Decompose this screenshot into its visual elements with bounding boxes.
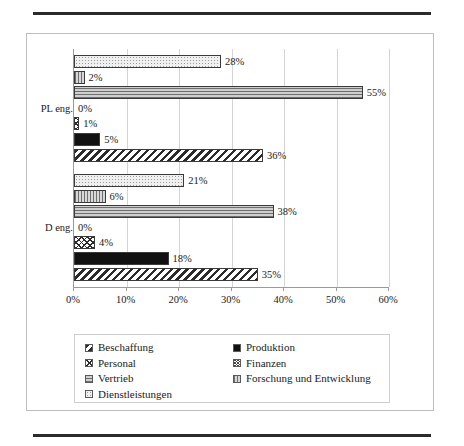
bar-vertrieb-pleng [74, 86, 363, 99]
legend-item-vertrieb: Vertrieb [85, 371, 172, 387]
x-axis-tick-label: 0% [66, 294, 80, 306]
bar-value-label: 5% [104, 133, 118, 146]
x-axis-tick-label: 60% [378, 294, 397, 306]
legend-label: Forschung und Entwicklung [246, 371, 371, 387]
gridline [232, 49, 233, 287]
bar-value-label: 18% [173, 252, 192, 265]
x-axis-tick-label: 30% [221, 294, 240, 306]
bottom-horizontal-rule [33, 434, 431, 437]
solid-black-swatch [233, 344, 241, 352]
legend-item-personal: Personal [85, 356, 172, 372]
bar-produktion-deng [74, 252, 169, 265]
y-axis-label-group-0: PL eng. [27, 103, 73, 114]
legend-item-dienstleistungen: Dienstleistungen [85, 387, 172, 403]
plot-area-wrapper: PL eng. D eng. 28%2%55%0%1%5%36%21%6%38%… [27, 38, 435, 328]
bar-value-label: 55% [367, 86, 386, 99]
bar-value-label: 2% [89, 71, 103, 84]
bar-value-label: 36% [267, 149, 286, 162]
gridline [284, 49, 285, 287]
bar-value-label: 6% [110, 190, 124, 203]
legend-item-finanzen: Finanzen [233, 356, 371, 372]
x-axis-tick-label: 20% [168, 294, 187, 306]
x-axis-tick [336, 287, 337, 291]
bar-value-label: 0% [78, 102, 92, 115]
gridline [337, 49, 338, 287]
legend-label: Finanzen [246, 356, 286, 372]
legend-column-left: BeschaffungPersonalVertriebDienstleistun… [85, 340, 172, 402]
bar-dienstleistungen-pleng [74, 55, 221, 68]
legend-label: Vertrieb [98, 371, 133, 387]
top-horizontal-rule [33, 12, 431, 15]
bar-value-label: 35% [262, 268, 281, 281]
bar-beschaffung-deng [74, 268, 258, 281]
chart-legend: BeschaffungPersonalVertriebDienstleistun… [74, 334, 390, 403]
bar-value-label: 21% [188, 174, 207, 187]
legend-column-right: ProduktionFinanzenForschung und Entwickl… [233, 340, 371, 387]
x-axis-tick-label: 50% [326, 294, 345, 306]
bar-personal-pleng [74, 117, 79, 130]
plot-area: 28%2%55%0%1%5%36%21%6%38%0%4%18%35% [73, 49, 388, 287]
dense-cross-hatch-swatch [233, 359, 241, 367]
gridline [389, 49, 390, 287]
legend-item-beschaffung: Beschaffung [85, 340, 172, 356]
x-axis-tick-label: 40% [273, 294, 292, 306]
x-axis-tick [126, 287, 127, 291]
bar-personal-deng [74, 236, 95, 249]
x-axis-tick [283, 287, 284, 291]
bar-forschung-und-entwicklung-pleng [74, 71, 85, 84]
bar-forschung-und-entwicklung-deng [74, 190, 106, 203]
light-dots-swatch [85, 390, 93, 398]
legend-label: Produktion [246, 340, 295, 356]
x-axis-tick [178, 287, 179, 291]
x-axis-tick [231, 287, 232, 291]
bar-beschaffung-pleng [74, 149, 263, 162]
bar-value-label: 4% [99, 236, 113, 249]
horizontal-lines-swatch [85, 375, 93, 383]
bar-value-label: 38% [278, 205, 297, 218]
y-axis-label-group-1: D eng. [27, 222, 73, 233]
bar-value-label: 1% [83, 117, 97, 130]
y-axis-labels: PL eng. D eng. [27, 38, 73, 287]
legend-item-produktion: Produktion [233, 340, 371, 356]
legend-item-forschung-und-entwicklung: Forschung und Entwicklung [233, 371, 371, 387]
x-axis-tick [73, 287, 74, 291]
document-page: PL eng. D eng. 28%2%55%0%1%5%36%21%6%38%… [0, 0, 464, 446]
legend-label: Beschaffung [98, 340, 153, 356]
diagonal-stripes-swatch [85, 344, 93, 352]
legend-label: Personal [98, 356, 136, 372]
bar-vertrieb-deng [74, 205, 274, 218]
bar-produktion-pleng [74, 133, 100, 146]
x-axis-tick [388, 287, 389, 291]
chart-container: PL eng. D eng. 28%2%55%0%1%5%36%21%6%38%… [26, 33, 434, 411]
bar-dienstleistungen-deng [74, 174, 184, 187]
legend-label: Dienstleistungen [98, 387, 172, 403]
bar-value-label: 28% [225, 55, 244, 68]
vertical-lines-swatch [233, 375, 241, 383]
bar-value-label: 0% [78, 221, 92, 234]
cross-hatch-swatch [85, 359, 93, 367]
x-axis-tick-label: 10% [116, 294, 135, 306]
